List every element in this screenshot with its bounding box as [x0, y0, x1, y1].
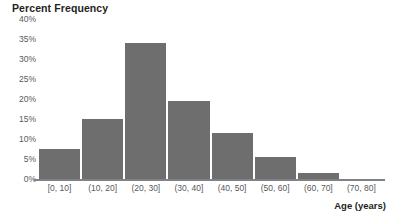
x-axis-tick-label: (30, 40] — [167, 183, 210, 193]
histogram-bar[interactable] — [38, 149, 81, 179]
y-axis-tick-label: 25% — [19, 74, 36, 84]
x-axis-tick-label: (10, 20] — [81, 183, 124, 193]
histogram-bar-cell[interactable] — [297, 19, 340, 179]
histogram-bar[interactable] — [211, 133, 254, 179]
histogram-bar[interactable] — [124, 43, 167, 179]
y-axis: 0%5%10%15%20%25%30%35%40% — [8, 19, 36, 179]
percent-frequency-histogram: Percent Frequency 0%5%10%15%20%25%30%35%… — [0, 0, 396, 224]
histogram-bar-cell[interactable] — [167, 19, 210, 179]
y-axis-tick-label: 20% — [19, 94, 36, 104]
x-axis-tick-labels: [0, 10](10, 20](20, 30](30, 40](40, 50](… — [38, 183, 383, 193]
chart-title: Percent Frequency — [12, 2, 108, 14]
plot-area — [38, 19, 383, 179]
histogram-bar[interactable] — [81, 119, 124, 179]
x-axis-tick-label: (40, 50] — [211, 183, 254, 193]
histogram-bar[interactable] — [167, 101, 210, 179]
x-axis-tick-label: (50, 60] — [254, 183, 297, 193]
x-axis-tick-label: (60, 70] — [297, 183, 340, 193]
x-axis-tick-label: (70, 80] — [340, 183, 383, 193]
y-axis-tick-label: 10% — [19, 134, 36, 144]
y-axis-tick-label: 40% — [19, 14, 36, 24]
bar-series — [38, 19, 383, 179]
histogram-bar[interactable] — [254, 157, 297, 179]
histogram-bar-cell[interactable] — [124, 19, 167, 179]
x-axis-title: Age (years) — [334, 200, 386, 211]
y-axis-tick-label: 15% — [19, 114, 36, 124]
histogram-bar-cell[interactable] — [254, 19, 297, 179]
x-axis-line — [34, 179, 385, 181]
y-axis-tick-label: 30% — [19, 54, 36, 64]
histogram-bar-cell[interactable] — [340, 19, 383, 179]
histogram-bar-cell[interactable] — [211, 19, 254, 179]
x-axis-tick-label: [0, 10] — [38, 183, 81, 193]
y-axis-tick-label: 35% — [19, 34, 36, 44]
histogram-bar-cell[interactable] — [38, 19, 81, 179]
x-axis-tick-label: (20, 30] — [124, 183, 167, 193]
y-axis-tick-label: 5% — [24, 154, 36, 164]
histogram-bar-cell[interactable] — [81, 19, 124, 179]
